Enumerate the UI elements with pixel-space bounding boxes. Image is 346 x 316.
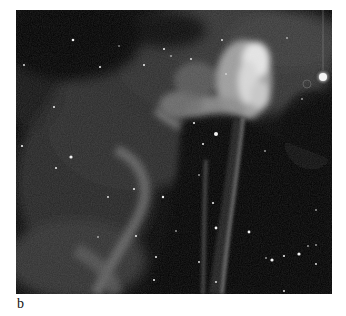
star xyxy=(198,174,200,176)
star xyxy=(190,58,192,60)
star xyxy=(155,256,157,258)
star xyxy=(198,261,200,263)
star xyxy=(212,202,214,204)
star xyxy=(175,230,177,232)
star xyxy=(315,263,317,265)
star xyxy=(133,188,135,190)
star xyxy=(23,64,25,66)
star xyxy=(69,155,72,158)
star xyxy=(135,235,137,237)
star xyxy=(202,143,204,145)
star xyxy=(248,231,251,234)
star xyxy=(307,245,309,247)
star xyxy=(215,281,217,283)
star xyxy=(315,209,317,211)
star xyxy=(53,106,55,108)
star xyxy=(265,257,267,259)
star xyxy=(315,244,317,246)
star xyxy=(283,290,285,292)
star xyxy=(319,73,327,81)
star xyxy=(283,255,285,257)
star xyxy=(170,55,172,57)
star xyxy=(264,150,266,152)
nebula-image xyxy=(16,10,332,294)
star xyxy=(99,66,101,68)
star xyxy=(221,39,223,41)
star xyxy=(270,258,273,261)
star xyxy=(107,196,109,198)
star xyxy=(72,39,75,42)
star xyxy=(97,236,99,238)
star xyxy=(286,37,288,39)
nebula-svg xyxy=(16,10,332,294)
star xyxy=(297,252,300,255)
star xyxy=(162,196,164,198)
star xyxy=(21,145,23,147)
star xyxy=(153,279,155,281)
star xyxy=(193,122,195,124)
star xyxy=(118,45,119,46)
star xyxy=(163,48,165,50)
star xyxy=(214,132,218,136)
star xyxy=(215,227,218,230)
star xyxy=(55,167,57,169)
panel-label: b xyxy=(17,296,24,312)
star xyxy=(225,73,227,75)
film-grain xyxy=(16,10,332,294)
star xyxy=(143,64,145,66)
star xyxy=(301,98,303,100)
